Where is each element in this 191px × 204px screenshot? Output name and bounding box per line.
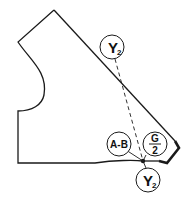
label-y2-bottom: Y 2: [136, 168, 160, 192]
intersection-point: [141, 159, 145, 163]
svg-text:2: 2: [152, 145, 158, 156]
label-y2-top: Y 2: [100, 35, 124, 59]
pattern-diagonal-edge: [54, 10, 175, 141]
svg-text:G: G: [151, 133, 159, 144]
svg-text:A-B: A-B: [110, 139, 128, 150]
svg-text:2: 2: [117, 48, 122, 57]
label-a-b: A-B: [107, 132, 131, 156]
pattern-diagram: Y 2 A-B G 2 Y 2: [0, 0, 191, 204]
label-g-half: G 2: [143, 132, 167, 156]
svg-text:2: 2: [152, 181, 157, 190]
